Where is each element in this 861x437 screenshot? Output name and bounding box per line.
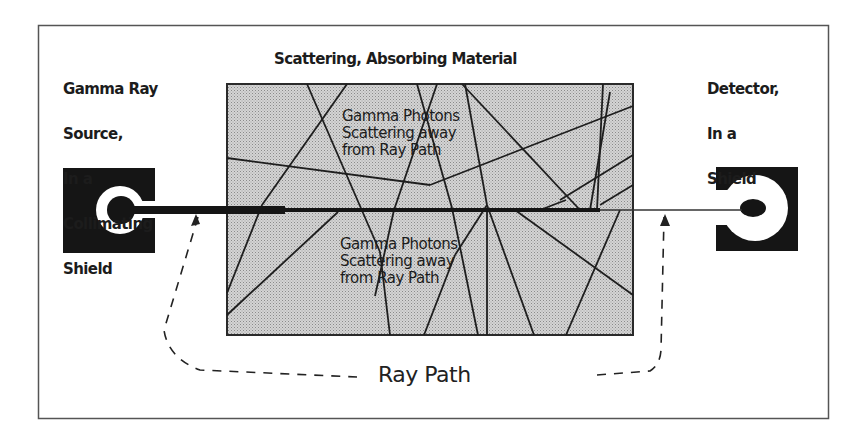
- source-label-line: In a: [63, 172, 158, 187]
- scatter-upper-line: Scattering away: [342, 125, 460, 142]
- detector-label-line: Shield: [707, 172, 779, 187]
- arrow-up-icon: [191, 214, 200, 226]
- material-title: Scattering, Absorbing Material: [274, 52, 517, 67]
- scatter-lower-label: Gamma Photons Scattering away from Ray P…: [340, 236, 458, 287]
- scatter-lower-line: Scattering away: [340, 253, 458, 270]
- scatter-upper-line: from Ray Path: [342, 142, 460, 159]
- detector-label-line: Detector,: [707, 82, 779, 97]
- arrow-up-icon: [660, 214, 670, 226]
- ray-path-label: Ray Path: [372, 362, 477, 387]
- scatter-upper-label: Gamma Photons Scattering away from Ray P…: [342, 108, 460, 159]
- source-label-line: Collimating: [63, 217, 158, 232]
- scatter-lower-line: Gamma Photons: [340, 236, 458, 253]
- source-label-line: Gamma Ray: [63, 82, 158, 97]
- source-label-line: Shield: [63, 262, 158, 277]
- detector-label-line: In a: [707, 127, 779, 142]
- source-label-line: Source,: [63, 127, 158, 142]
- detector-label: Detector, In a Shield: [707, 52, 779, 202]
- scatter-lower-line: from Ray Path: [340, 270, 458, 287]
- source-label: Gamma Ray Source, In a Collimating Shiel…: [63, 52, 158, 292]
- scatter-upper-line: Gamma Photons: [342, 108, 460, 125]
